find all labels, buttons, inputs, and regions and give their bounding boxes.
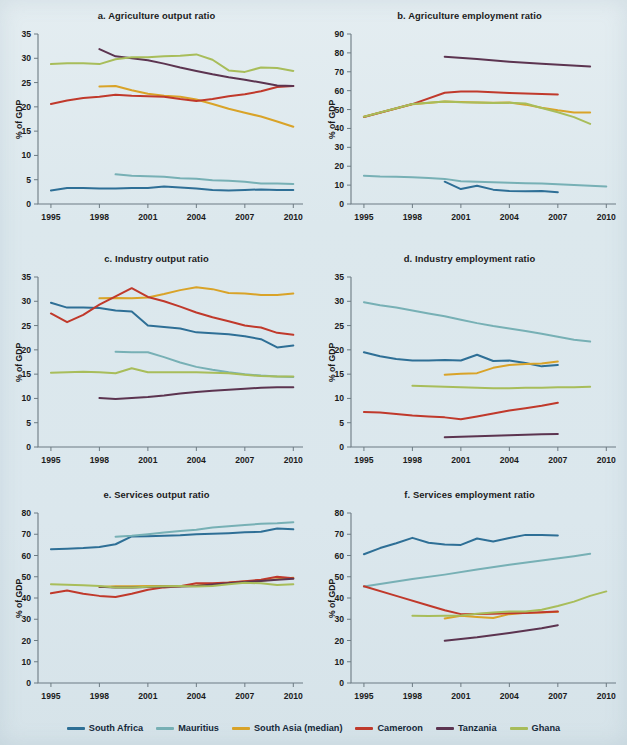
series-line-south-asia-median	[99, 86, 293, 127]
y-tick-label: 5	[339, 418, 344, 428]
panel-grid: a. Agriculture output ratio% of GDP05101…	[0, 0, 627, 700]
x-tick-label: 1998	[403, 691, 422, 701]
legend-item-south-asia-median[interactable]: South Asia (median)	[232, 723, 342, 733]
series-line-cameroon	[364, 586, 558, 614]
chart-legend: South AfricaMauritiusSouth Asia (median)…	[0, 723, 627, 733]
x-tick-label: 2010	[597, 212, 616, 222]
x-tick-label: 2001	[138, 691, 157, 701]
y-tick-label: 25	[21, 321, 31, 331]
chart-panel-d: d. Industry employment ratio% of GDP0510…	[313, 251, 626, 484]
chart-panel-e: e. Services output ratio% of GDP01020304…	[0, 487, 313, 720]
legend-label: South Africa	[89, 723, 143, 733]
y-tick-label: 0	[339, 199, 344, 209]
series-line-ghana	[51, 368, 293, 376]
x-tick-label: 2007	[235, 691, 254, 701]
y-tick-label: 20	[21, 636, 31, 646]
figure-canvas: a. Agriculture output ratio% of GDP05101…	[0, 0, 627, 745]
y-tick-label: 30	[334, 614, 344, 624]
axis-lines	[351, 513, 616, 683]
y-tick-label: 10	[21, 393, 31, 403]
x-tick-label: 2001	[138, 212, 157, 222]
plot-area-a: 05101520253035199519982001200420072010	[0, 8, 313, 241]
plot-area-d: 05101520253035199519982001200420072010	[313, 251, 626, 484]
x-tick-label: 1998	[90, 691, 109, 701]
x-tick-label: 2010	[284, 691, 303, 701]
x-tick-label: 2004	[500, 455, 519, 465]
y-tick-label: 20	[334, 636, 344, 646]
y-tick-label: 40	[21, 593, 31, 603]
x-tick-label: 2004	[500, 212, 519, 222]
x-tick-label: 1998	[403, 455, 422, 465]
y-tick-label: 40	[334, 123, 344, 133]
legend-swatch-icon	[67, 727, 85, 730]
plot-area-c: 05101520253035199519982001200420072010	[0, 251, 313, 484]
x-tick-label: 2004	[187, 691, 206, 701]
axis-lines	[38, 34, 303, 204]
series-line-south-africa	[51, 303, 293, 348]
series-line-tanzania	[99, 387, 293, 399]
x-tick-label: 1995	[354, 691, 373, 701]
chart-panel-c: c. Industry output ratio% of GDP05101520…	[0, 251, 313, 484]
y-tick-label: 5	[26, 418, 31, 428]
y-tick-label: 60	[21, 551, 31, 561]
series-line-mauritius	[364, 302, 590, 341]
x-tick-label: 1995	[41, 212, 60, 222]
x-tick-label: 2010	[284, 455, 303, 465]
series-line-tanzania	[445, 57, 590, 67]
legend-swatch-icon	[232, 727, 250, 730]
x-tick-label: 2004	[500, 691, 519, 701]
series-line-ghana	[364, 102, 590, 124]
y-tick-label: 20	[334, 345, 344, 355]
plot-area-e: 0102030405060708019951998200120042007201…	[0, 487, 313, 720]
legend-label: Mauritius	[178, 723, 219, 733]
legend-label: Cameroon	[377, 723, 422, 733]
y-tick-label: 20	[21, 345, 31, 355]
x-tick-label: 1995	[354, 455, 373, 465]
y-tick-label: 20	[334, 161, 344, 171]
series-line-mauritius	[116, 174, 294, 184]
legend-item-mauritius[interactable]: Mauritius	[156, 723, 219, 733]
legend-item-south-africa[interactable]: South Africa	[67, 723, 143, 733]
axis-lines	[38, 513, 303, 683]
y-tick-label: 10	[21, 657, 31, 667]
series-line-tanzania	[445, 434, 558, 437]
y-tick-label: 15	[21, 126, 31, 136]
series-line-south-asia-median	[364, 101, 590, 116]
y-tick-label: 30	[21, 53, 31, 63]
chart-panel-a: a. Agriculture output ratio% of GDP05101…	[0, 8, 313, 241]
legend-item-tanzania[interactable]: Tanzania	[436, 723, 497, 733]
y-tick-label: 30	[334, 142, 344, 152]
y-tick-label: 0	[26, 199, 31, 209]
plot-area-f: 0102030405060708019951998200120042007201…	[313, 487, 626, 720]
plot-area-b: 0102030405060708090199519982001200420072…	[313, 8, 626, 241]
legend-swatch-icon	[436, 727, 454, 730]
y-tick-label: 20	[21, 102, 31, 112]
legend-item-ghana[interactable]: Ghana	[510, 723, 561, 733]
y-tick-label: 50	[21, 572, 31, 582]
y-tick-label: 50	[334, 572, 344, 582]
series-line-south-africa	[364, 535, 558, 554]
y-tick-label: 35	[21, 272, 31, 282]
y-tick-label: 80	[21, 508, 31, 518]
legend-item-cameroon[interactable]: Cameroon	[355, 723, 422, 733]
y-tick-label: 30	[21, 296, 31, 306]
y-tick-label: 0	[26, 678, 31, 688]
legend-label: Ghana	[532, 723, 561, 733]
series-line-cameroon	[364, 403, 558, 420]
x-tick-label: 1998	[90, 212, 109, 222]
x-tick-label: 1998	[90, 455, 109, 465]
y-tick-label: 50	[334, 105, 344, 115]
y-tick-label: 5	[26, 175, 31, 185]
legend-label: South Asia (median)	[254, 723, 342, 733]
x-tick-label: 2001	[451, 691, 470, 701]
x-tick-label: 2007	[548, 691, 567, 701]
y-tick-label: 10	[334, 393, 344, 403]
x-tick-label: 2010	[597, 691, 616, 701]
legend-swatch-icon	[510, 727, 528, 730]
y-tick-label: 0	[26, 442, 31, 452]
y-tick-label: 15	[21, 369, 31, 379]
chart-panel-b: b. Agriculture employment ratio% of GDP0…	[313, 8, 626, 241]
x-tick-label: 2010	[597, 455, 616, 465]
series-line-south-asia-median	[445, 362, 558, 375]
y-tick-label: 10	[334, 180, 344, 190]
